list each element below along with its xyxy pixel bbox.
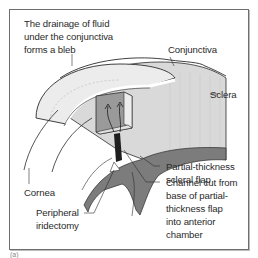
label-sclera: Sclera: [210, 88, 237, 101]
label-channel-line-5: chamber: [166, 228, 237, 241]
label-bleb-line-3: forms a bleb: [24, 43, 113, 56]
label-iridectomy-line-1: Peripheral: [36, 206, 79, 219]
label-iridectomy-line-2: iridectomy: [36, 219, 79, 232]
label-channel-line-3: thickness flap: [166, 202, 237, 215]
label-channel-line-4: into anterior: [166, 215, 237, 228]
label-bleb: The drainage of fluid under the conjunct…: [24, 17, 113, 56]
label-iridectomy: Peripheral iridectomy: [36, 206, 79, 232]
figure-caption-label: (a): [10, 251, 19, 258]
label-conjunctiva: Conjunctiva: [168, 43, 217, 56]
label-scleral-flap-line-1: Partial-thickness: [166, 160, 235, 173]
peripheral-iridectomy: [110, 162, 120, 172]
label-bleb-line-1: The drainage of fluid: [24, 17, 113, 30]
label-bleb-line-2: under the conjunctiva: [24, 30, 113, 43]
label-channel-line-2: base of partial-: [166, 189, 237, 202]
label-cornea: Cornea: [24, 186, 55, 199]
label-channel-line-1: Channel cut from: [166, 176, 237, 189]
label-channel: Channel cut from base of partial- thickn…: [166, 176, 237, 241]
